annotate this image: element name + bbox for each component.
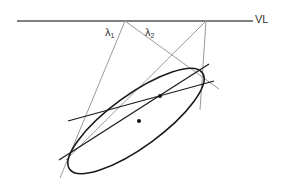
vl-label: VL xyxy=(255,14,268,25)
diagram-canvas: VL λ1 λ2 xyxy=(0,0,286,189)
secant-line-1 xyxy=(59,64,209,160)
ellipse xyxy=(54,52,217,189)
lambda1-label: λ1 xyxy=(105,27,114,39)
pole-point xyxy=(158,94,162,98)
lambda2-label: λ2 xyxy=(145,27,154,39)
center-point xyxy=(137,119,141,123)
right-vertical-line xyxy=(200,21,206,110)
diagram-svg xyxy=(0,0,286,189)
